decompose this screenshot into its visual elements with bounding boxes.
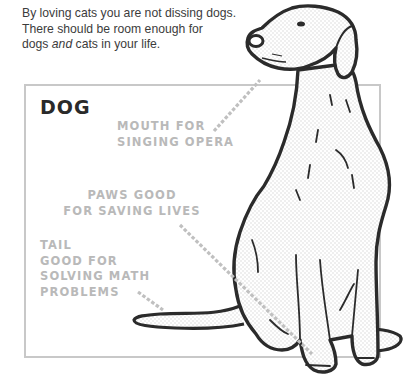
- callout-paws-line-2: FOR SAVING LIVES: [62, 204, 202, 220]
- callout-tail-line-1: TAIL: [40, 238, 150, 254]
- dog-body: [234, 64, 389, 372]
- callout-mouth: MOUTH FOR SINGING OPERA: [117, 119, 234, 150]
- dog-nose: [249, 36, 263, 47]
- callout-paws-line-1: PAWS GOOD: [62, 188, 202, 204]
- dog-tail: [134, 306, 244, 328]
- callout-paws: PAWS GOOD FOR SAVING LIVES: [62, 188, 202, 219]
- callout-mouth-line-2: SINGING OPERA: [117, 135, 234, 151]
- callout-mouth-line-1: MOUTH FOR: [117, 119, 234, 135]
- callout-tail-line-3: SOLVING MATH: [40, 269, 150, 285]
- panel-title: DOG: [40, 96, 91, 118]
- callout-tail: TAIL GOOD FOR SOLVING MATH PROBLEMS: [40, 238, 150, 300]
- callout-tail-line-4: PROBLEMS: [40, 285, 150, 301]
- dog-eye: [297, 22, 305, 27]
- callout-tail-line-2: GOOD FOR: [40, 254, 150, 270]
